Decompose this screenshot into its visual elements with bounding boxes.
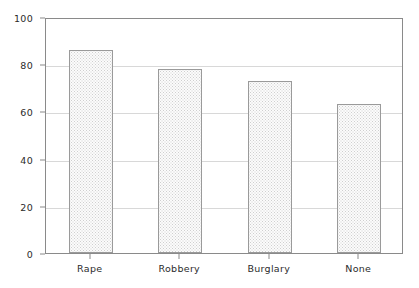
- bar-burglary: [248, 81, 292, 253]
- x-tick-mark: [358, 254, 359, 259]
- y-tick-label: 40: [20, 154, 33, 165]
- y-tick-label: 20: [20, 201, 33, 212]
- y-tick-label: 0: [27, 249, 33, 260]
- x-tick-mark: [89, 254, 90, 259]
- y-tick-label: 60: [20, 107, 33, 118]
- x-tick-label: Robbery: [158, 263, 200, 274]
- x-tick-label: None: [345, 263, 371, 274]
- y-axis: 020406080100: [0, 0, 45, 288]
- plot-area: [45, 18, 403, 254]
- x-tick-mark: [179, 254, 180, 259]
- y-tick-label: 80: [20, 60, 33, 71]
- bar-chart: 020406080100 RapeRobberyBurglaryNone: [0, 0, 419, 288]
- y-tick-label: 100: [14, 13, 33, 24]
- bar-none: [337, 104, 381, 253]
- x-tick-label: Burglary: [247, 263, 290, 274]
- bar-robbery: [158, 69, 202, 253]
- x-tick-label: Rape: [77, 263, 102, 274]
- bar-rape: [69, 50, 113, 253]
- x-tick-mark: [268, 254, 269, 259]
